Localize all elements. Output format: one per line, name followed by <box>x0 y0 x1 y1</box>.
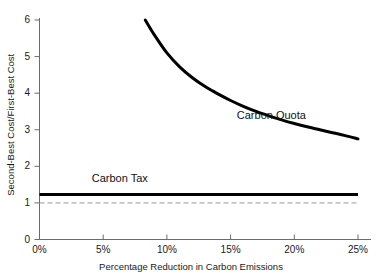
series-annotation-carbon-tax: Carbon Tax <box>92 173 148 184</box>
x-tick-label: 15% <box>208 245 254 255</box>
x-tick-label: 0% <box>17 245 63 255</box>
x-axis-title: Percentage Reduction in Carbon Emissions <box>0 262 382 272</box>
plot-area <box>0 0 382 280</box>
x-tick-label: 10% <box>144 245 190 255</box>
y-axis-title: Second-Best Cost/First-Best Cost <box>6 30 16 220</box>
series-annotation-carbon-quota: Carbon Quota <box>237 110 306 121</box>
x-tick-label: 25% <box>335 245 381 255</box>
x-axis-ticks <box>40 235 359 240</box>
chart-figure: 0123456 0%5%10%15%20%25% Carbon QuotaCar… <box>0 0 382 280</box>
y-tick-label: 0 <box>0 235 30 245</box>
y-axis-ticks <box>35 20 40 240</box>
carbon-quota-series <box>145 20 358 139</box>
x-tick-label: 20% <box>271 245 317 255</box>
x-tick-label: 5% <box>80 245 126 255</box>
y-tick-label: 6 <box>0 15 30 25</box>
